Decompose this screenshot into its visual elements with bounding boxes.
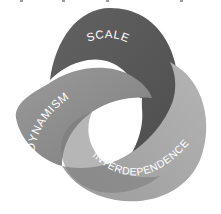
top-text-fragments bbox=[20, 0, 183, 2]
trefoil-diagram: SCALE DYNAMISM INTERDEPENDENCE bbox=[0, 0, 221, 214]
